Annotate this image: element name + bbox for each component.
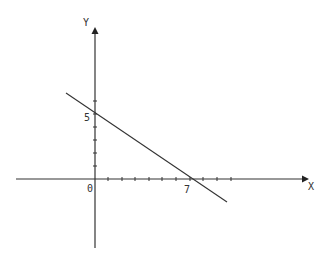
- y-axis-label: Y: [83, 17, 89, 28]
- y-intercept-label: 5: [84, 112, 90, 123]
- coordinate-plane: Y X 0 7 5: [0, 0, 327, 261]
- y-axis-arrow-icon: [92, 27, 99, 34]
- x-intercept-label: 7: [184, 184, 190, 195]
- origin-label: 0: [87, 183, 93, 194]
- x-axis-label: X: [308, 181, 314, 192]
